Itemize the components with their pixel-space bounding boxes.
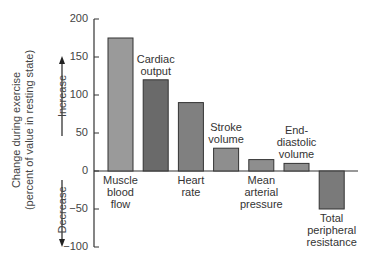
category-label: Totalperipheralresistance [292, 212, 370, 248]
category-label: End-diastolicvolume [257, 124, 337, 160]
y-tick-label: 50 [58, 126, 88, 138]
bar [319, 171, 344, 209]
category-label: Cardiacoutput [116, 53, 196, 77]
y-axis-title-line-1: Change during exercise [10, 50, 23, 210]
bar [214, 148, 239, 171]
bar [143, 80, 168, 171]
y-axis-title: Change during exercise (percent of value… [8, 30, 38, 230]
category-label: Strokevolume [186, 121, 266, 145]
y-tick-label: 150 [58, 50, 88, 62]
y-tick-label: −100 [58, 240, 88, 252]
y-tick-label: 100 [58, 88, 88, 100]
category-label: Meanarterialpressure [221, 174, 301, 210]
y-axis-title-line-2: (percent of value in resting state) [23, 50, 36, 210]
category-label: Heartrate [151, 174, 231, 198]
bar [284, 163, 309, 171]
category-label: Musclebloodflow [81, 174, 161, 210]
bar [249, 160, 274, 171]
y-tick-label: 200 [58, 12, 88, 24]
